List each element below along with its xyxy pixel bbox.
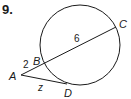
- point-label-b: B: [33, 55, 40, 67]
- point-label-d: D: [64, 87, 72, 99]
- problem-number: 9.: [2, 2, 13, 17]
- point-label-c: C: [119, 18, 127, 30]
- point-label-a: A: [8, 70, 16, 82]
- length-label-ab: 2: [23, 59, 29, 70]
- secant-tangent-diagram: 9. A B C D 2 6 z: [0, 0, 131, 99]
- length-label-bc: 6: [74, 33, 80, 44]
- secant-line-ac: [21, 27, 116, 75]
- length-label-ad: z: [37, 82, 43, 93]
